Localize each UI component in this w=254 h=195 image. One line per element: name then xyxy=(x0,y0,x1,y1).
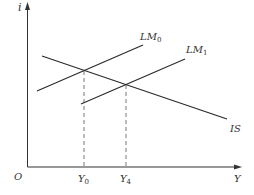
is-label: IS xyxy=(229,123,241,134)
is-curve xyxy=(42,56,227,119)
lm1-label: LM1 xyxy=(185,44,207,57)
y-axis-arrow-icon xyxy=(25,2,30,10)
lm0-label: LM0 xyxy=(139,31,161,44)
islm-diagram: i O Y LM0 LM1 IS Y0 Y4 xyxy=(0,0,254,195)
x-axis-arrow-icon xyxy=(234,165,242,170)
y4-label: Y4 xyxy=(120,173,132,186)
x-axis-label: Y xyxy=(234,173,242,184)
origin-label: O xyxy=(14,171,22,182)
y0-label: Y0 xyxy=(78,173,89,186)
y-axis-label: i xyxy=(18,1,22,14)
